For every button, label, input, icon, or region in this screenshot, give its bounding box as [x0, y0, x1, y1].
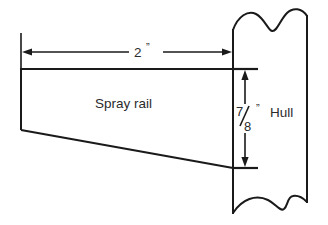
- spray-rail-label: Spray rail: [95, 96, 152, 111]
- height-fraction-label: 7 8: [236, 104, 251, 134]
- height-fraction-denominator: 8: [244, 119, 251, 134]
- height-fraction-numerator: 7: [236, 104, 243, 119]
- diagram-canvas: 2 ” 7 8 ” Spray rail Hull: [0, 0, 328, 225]
- arrow-up-icon: [241, 70, 248, 80]
- hull-label: Hull: [270, 105, 293, 120]
- width-dimension-label: 2: [134, 45, 142, 60]
- width-inch-mark: ”: [146, 41, 150, 53]
- height-dimension-group: 7 8 ”: [234, 69, 260, 168]
- width-dimension-group: 2 ”: [21, 33, 232, 70]
- arrow-down-icon: [241, 157, 248, 167]
- arrow-right-icon: [222, 48, 232, 55]
- spray-rail-tapered-bottom-edge: [21, 130, 233, 168]
- hull-top-break-line: [233, 9, 307, 31]
- spray-rail-shape: [21, 68, 233, 168]
- hull-bottom-break-line: [233, 196, 307, 213]
- spray-rail-diagram: 2 ” 7 8 ” Spray rail Hull: [0, 0, 328, 225]
- arrow-left-icon: [22, 48, 32, 55]
- height-inch-mark: ”: [256, 102, 260, 114]
